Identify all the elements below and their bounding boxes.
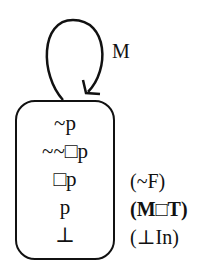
world-line-2: ~~□p bbox=[15, 140, 115, 162]
justification-m-box-t: (M□T) bbox=[130, 198, 188, 220]
justification-neg-f: (~F) bbox=[130, 170, 165, 192]
world-line-1: ~p bbox=[15, 112, 115, 134]
world-line-5: ⊥ bbox=[15, 224, 115, 246]
justification-bottom-in: (⊥In) bbox=[130, 226, 179, 248]
world-line-3: □p bbox=[15, 168, 115, 190]
accessibility-label: M bbox=[112, 40, 130, 63]
world-line-4: p bbox=[15, 196, 115, 218]
